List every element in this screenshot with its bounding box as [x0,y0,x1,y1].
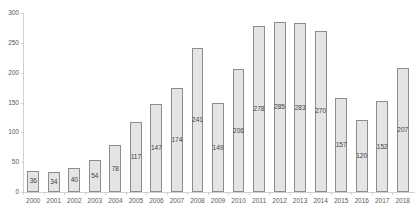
bar-value-label: 54 [86,172,104,179]
y-tick-mark [21,132,24,133]
x-tick-mark [44,192,45,195]
x-tick-mark [208,192,209,195]
x-tick-mark [64,192,65,195]
y-tick-label: 50 [1,158,19,165]
bar-value-label: 147 [147,144,165,151]
bar-value-label: 149 [209,144,227,151]
x-tick-label: 2016 [351,197,373,204]
x-tick-label: 2017 [371,197,393,204]
x-tick-mark [23,192,24,195]
bar-value-label: 157 [332,141,350,148]
x-tick-mark [187,192,188,195]
x-tick-mark [372,192,373,195]
bar-value-label: 40 [65,176,83,183]
x-tick-mark [105,192,106,195]
bar-value-label: 278 [250,105,268,112]
bar-value-label: 120 [353,152,371,159]
bar-value-label: 283 [291,104,309,111]
y-tick-mark [21,103,24,104]
x-axis [23,192,415,193]
y-tick-mark [21,13,24,14]
y-tick-mark [21,43,24,44]
x-tick-mark [331,192,332,195]
x-tick-label: 2009 [207,197,229,204]
bar-value-label: 78 [106,165,124,172]
x-tick-mark [290,192,291,195]
bar-value-label: 34 [45,178,63,185]
x-tick-label: 2005 [125,197,147,204]
x-tick-label: 2012 [269,197,291,204]
y-tick-label: 150 [1,99,19,106]
x-tick-label: 2003 [84,197,106,204]
x-tick-label: 2001 [43,197,65,204]
bar-value-label: 206 [230,127,248,134]
x-tick-mark [228,192,229,195]
y-tick-label: 200 [1,69,19,76]
x-tick-mark [85,192,86,195]
x-tick-label: 2011 [248,197,270,204]
x-tick-mark [392,192,393,195]
x-tick-mark [269,192,270,195]
y-tick-label: 0 [1,188,19,195]
x-tick-label: 2013 [289,197,311,204]
x-tick-mark [167,192,168,195]
y-tick-label: 300 [1,9,19,16]
x-tick-mark [146,192,147,195]
x-tick-label: 2007 [166,197,188,204]
x-tick-mark [310,192,311,195]
y-tick-label: 250 [1,39,19,46]
y-tick-label: 100 [1,128,19,135]
x-tick-mark [126,192,127,195]
x-tick-label: 2018 [392,197,414,204]
bar-value-label: 152 [373,143,391,150]
bar-value-label: 207 [394,126,412,133]
bar-value-label: 270 [312,107,330,114]
y-tick-mark [21,162,24,163]
x-tick-label: 2008 [186,197,208,204]
x-tick-mark [351,192,352,195]
x-tick-label: 2002 [63,197,85,204]
x-tick-label: 2004 [104,197,126,204]
x-tick-label: 2000 [22,197,44,204]
bar-value-label: 36 [24,177,42,184]
bar-value-label: 241 [188,116,206,123]
x-tick-label: 2010 [228,197,250,204]
x-tick-label: 2015 [330,197,352,204]
x-tick-label: 2014 [310,197,332,204]
bar-value-label: 174 [168,136,186,143]
bar-value-label: 285 [271,103,289,110]
x-tick-label: 2006 [145,197,167,204]
y-tick-mark [21,73,24,74]
bar-chart: 050100150200250300 363440547811714717424… [0,0,420,213]
x-tick-mark [249,192,250,195]
bar-value-label: 117 [127,153,145,160]
